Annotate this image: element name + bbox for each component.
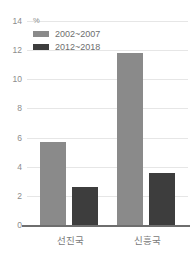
bar-emerging-2012-2018 [149,173,175,225]
bar-emerging-2002-2007 [117,53,143,225]
legend: 2002~2007 2012~2018 [33,28,100,54]
legend-swatch-icon-2012-2018 [33,44,49,50]
y-tick-4: 4 [0,163,22,172]
gridline-10 [27,79,188,80]
y-tick-14: 14 [0,17,22,26]
y-tick-12: 12 [0,46,22,55]
y-axis-unit-label: % [33,17,40,25]
legend-item-2002-2007[interactable]: 2002~2007 [33,28,100,39]
legend-label-2002-2007: 2002~2007 [55,29,100,39]
y-tick-8: 8 [0,104,22,113]
gridline-8 [27,108,188,109]
legend-item-2012-2018[interactable]: 2012~2018 [33,41,100,52]
bar-chart: 14 12 10 8 6 4 2 0 % 2002~2007 2012~2018… [0,0,196,260]
legend-swatch-icon-2002-2007 [33,31,49,37]
x-category-label-emerging: 신흥국 [112,235,182,246]
x-axis-line [22,225,190,227]
y-tick-10: 10 [0,75,22,84]
y-tick-6: 6 [0,134,22,143]
x-category-label-advanced: 선진국 [35,235,105,246]
gridline-14 [27,21,188,22]
gridline-6 [27,138,188,139]
bar-advanced-2002-2007 [40,142,66,225]
y-tick-0: 0 [0,221,22,230]
bar-advanced-2012-2018 [72,187,98,225]
legend-label-2012-2018: 2012~2018 [55,42,100,52]
y-tick-2: 2 [0,192,22,201]
